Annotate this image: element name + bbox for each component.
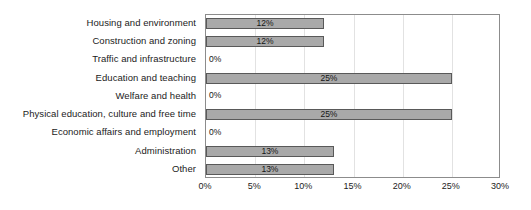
bar-row: 13% [206,161,499,179]
bar-value-label: 25% [206,73,452,84]
bar-chart: Housing and environmentConstruction and … [0,0,531,210]
bar-value-label: 12% [206,18,324,29]
bar-row: 25% [206,106,499,124]
category-label: Administration [135,142,196,160]
category-label: Physical education, culture and free tim… [23,105,196,123]
x-tick-label: 15% [333,181,373,191]
x-tick-label: 10% [283,181,323,191]
x-tick-label: 30% [480,181,520,191]
x-tick-label: 0% [185,181,225,191]
category-label: Economic affairs and employment [52,123,196,141]
bar-row: 13% [206,143,499,161]
bar-value-label: 0% [209,54,221,65]
bar-row: 12% [206,15,499,33]
category-label: Housing and environment [87,14,196,32]
category-label: Other [172,160,196,178]
plot-area: 12%12%0%25%0%25%0%13%13% [205,14,500,178]
bar-value-label: 25% [206,109,452,120]
bar-row: 25% [206,70,499,88]
category-axis: Housing and environmentConstruction and … [0,14,201,178]
category-label: Traffic and infrastructure [92,50,196,68]
bar-row: 0% [206,51,499,69]
bar-value-label: 0% [209,90,221,101]
x-tick-label: 20% [382,181,422,191]
category-label: Welfare and health [116,87,196,105]
category-label: Education and teaching [96,69,196,87]
value-axis: 0%5%10%15%20%25%30% [205,181,500,197]
x-tick-label: 5% [234,181,274,191]
bar-value-label: 0% [209,127,221,138]
category-label: Construction and zoning [92,32,196,50]
bar-value-label: 12% [206,36,324,47]
bar-value-label: 13% [206,164,334,175]
bar-rows: 12%12%0%25%0%25%0%13%13% [206,15,499,177]
x-tick-label: 25% [431,181,471,191]
bar-row: 0% [206,124,499,142]
bar-row: 0% [206,88,499,106]
bar-row: 12% [206,33,499,51]
bar-value-label: 13% [206,146,334,157]
